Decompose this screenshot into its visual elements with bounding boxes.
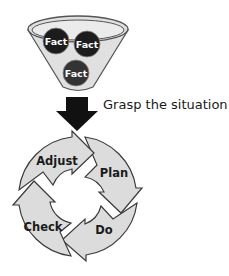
cycle-label-adjust: Adjust <box>36 154 78 168</box>
fact-label: Fact <box>76 39 99 50</box>
fact-ball: Fact <box>43 28 69 54</box>
funnel: Fact Fact Fact <box>28 16 128 91</box>
diagram-canvas: Fact Fact Fact Grasp the situation Plan … <box>0 0 229 276</box>
pdca-cycle <box>13 131 142 261</box>
fact-label: Fact <box>65 68 88 79</box>
fact-ball: Fact <box>63 60 89 86</box>
cycle-label-check: Check <box>24 220 63 234</box>
arrow-caption: Grasp the situation <box>103 97 228 112</box>
down-arrow-icon <box>56 97 98 131</box>
fact-ball: Fact <box>74 31 100 57</box>
cycle-label-do: Do <box>95 223 113 237</box>
cycle-label-plan: Plan <box>100 166 128 180</box>
fact-label: Fact <box>45 36 68 47</box>
cycle-arrow-check <box>13 181 71 256</box>
